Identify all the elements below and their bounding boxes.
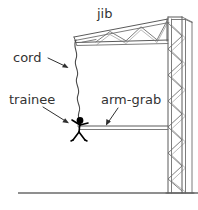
jib-truss <box>74 19 169 46</box>
mast-lattice-tower <box>166 17 194 193</box>
label-jib: jib <box>97 7 112 20</box>
label-cord: cord <box>13 51 41 64</box>
label-trainee: trainee <box>9 93 55 106</box>
crane-training-rig-diagram: jib cord trainee arm-grab <box>0 0 198 210</box>
leader-line-trainee <box>43 107 69 123</box>
leader-line-cord <box>48 58 69 68</box>
leader-line-arm-grab <box>106 108 118 126</box>
arm-grab-beam <box>78 126 168 130</box>
suspended-cord <box>75 40 80 124</box>
label-arm-grab: arm-grab <box>101 93 161 106</box>
